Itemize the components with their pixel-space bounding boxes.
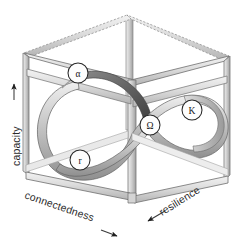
axis-capacity: capacity bbox=[10, 84, 22, 166]
node-r[interactable]: r bbox=[70, 150, 90, 170]
figure-canvas: α r Ω K capacity connectedness resilienc… bbox=[0, 0, 250, 252]
node-omega[interactable]: Ω bbox=[140, 115, 160, 135]
axis-label-connectedness: connectedness bbox=[23, 189, 96, 224]
axis-connectedness: connectedness bbox=[23, 189, 117, 236]
node-kappa-label: K bbox=[189, 106, 196, 116]
adaptive-cycle-figure: α r Ω K capacity connectedness resilienc… bbox=[0, 0, 250, 252]
connectedness-arrow bbox=[101, 230, 117, 236]
node-omega-label: Ω bbox=[146, 121, 153, 131]
frame-bottom-vertex bbox=[128, 193, 136, 203]
node-alpha-label: α bbox=[76, 69, 81, 79]
node-alpha[interactable]: α bbox=[68, 63, 88, 83]
node-kappa[interactable]: K bbox=[182, 100, 202, 120]
axis-label-capacity: capacity bbox=[10, 126, 22, 166]
